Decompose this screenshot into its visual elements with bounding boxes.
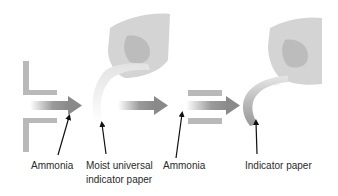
- pointer-ammonia-2: [176, 114, 182, 158]
- label-moist-paper-line1: Moist universal: [86, 159, 153, 172]
- pointer-ammonia-1: [58, 117, 69, 155]
- label-ammonia-right: Ammonia: [163, 159, 205, 172]
- label-moist-paper-line2: indicator paper: [86, 173, 152, 186]
- pointer-lines: [58, 114, 257, 158]
- ammonia-flow-arrow-right: [186, 96, 240, 115]
- label-indicator-paper: Indicator paper: [245, 159, 312, 172]
- ammonia-flow-arrow-left: [30, 96, 82, 115]
- pointer-moist-paper: [102, 124, 106, 154]
- gas-flow-arrow-middle: [118, 96, 168, 115]
- pointer-indicator-paper: [256, 122, 257, 154]
- label-ammonia-left: Ammonia: [31, 159, 73, 172]
- indicator-paper-changed: [243, 76, 288, 126]
- hand-right: [268, 17, 322, 86]
